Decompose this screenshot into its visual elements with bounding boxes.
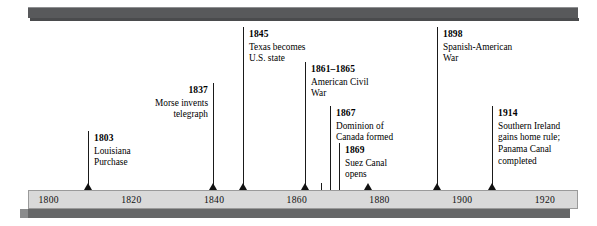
axis-event-marker (488, 183, 496, 190)
axis-event-marker (301, 183, 309, 190)
decorative-top-bar (28, 7, 578, 21)
event-year-spanish-american-war: 1898 (443, 29, 512, 42)
timeline-figure: 1803LouisianaPurchase1837Morse inventste… (0, 0, 597, 226)
event-callout-louisiana-purchase: 1803LouisianaPurchase (94, 133, 131, 169)
event-leader-line-morse-telegraph (213, 83, 214, 190)
axis-shadow (20, 209, 570, 218)
event-description-line-american-civil-war: American Civil (311, 77, 369, 89)
axis-tick-label-1900: 1900 (442, 194, 482, 205)
event-leader-line-american-civil-war (305, 62, 306, 190)
event-callout-texas-statehood: 1845Texas becomesU.S. state (249, 29, 305, 65)
event-description-line-spanish-american-war: War (443, 53, 512, 65)
event-year-texas-statehood: 1845 (249, 29, 305, 42)
axis-tick-label-1840: 1840 (194, 194, 234, 205)
event-year-dominion-of-canada: 1867 (336, 108, 393, 121)
event-leader-line-dominion-of-canada (330, 106, 331, 190)
event-description-line-dominion-of-canada: Canada formed (336, 132, 393, 144)
event-description-line-american-civil-war: War (311, 88, 369, 100)
event-year-suez-canal: 1869 (345, 145, 387, 158)
event-callout-american-civil-war: 1861–1865American CivilWar (311, 64, 369, 100)
event-description-line-suez-canal: opens (345, 169, 387, 181)
event-description-line-ireland-home-rule-panama-canal: gains home rule; (498, 132, 560, 144)
axis-tick-label-1880: 1880 (360, 194, 400, 205)
event-year-ireland-home-rule-panama-canal: 1914 (498, 108, 560, 121)
axis-event-marker (209, 183, 217, 190)
event-description-line-dominion-of-canada: Dominion of (336, 121, 393, 133)
axis-event-marker (84, 183, 92, 190)
axis-tick-label-1800: 1800 (29, 194, 69, 205)
event-callout-ireland-home-rule-panama-canal: 1914Southern Irelandgains home rule;Pana… (498, 108, 560, 167)
axis-tick-label-1920: 1920 (525, 194, 565, 205)
top-bar-face (28, 7, 578, 18)
top-bar-shadow (30, 18, 579, 21)
event-description-line-morse-telegraph: Morse invents (155, 98, 208, 110)
event-year-american-civil-war: 1861–1865 (311, 64, 369, 77)
event-leader-line-texas-statehood (243, 27, 244, 190)
axis-event-marker (433, 183, 441, 190)
event-year-morse-telegraph: 1837 (155, 85, 208, 98)
event-description-line-ireland-home-rule-panama-canal: Panama Canal (498, 144, 560, 156)
event-description-line-suez-canal: Suez Canal (345, 158, 387, 170)
axis-event-marker (364, 183, 372, 190)
event-callout-dominion-of-canada: 1867Dominion ofCanada formed (336, 108, 393, 144)
event-description-line-morse-telegraph: telegraph (155, 109, 208, 121)
event-callout-morse-telegraph: 1837Morse inventstelegraph (155, 85, 208, 121)
event-description-line-louisiana-purchase: Louisiana (94, 146, 131, 158)
event-description-line-texas-statehood: U.S. state (249, 53, 305, 65)
event-leader-line-ireland-home-rule-panama-canal (492, 106, 493, 190)
axis-event-marker (239, 183, 247, 190)
event-description-line-ireland-home-rule-panama-canal: completed (498, 156, 560, 168)
event-description-line-spanish-american-war: Spanish-American (443, 42, 512, 54)
event-description-line-texas-statehood: Texas becomes (249, 42, 305, 54)
event-callout-suez-canal: 1869Suez Canalopens (345, 145, 387, 181)
event-leader-line-suez-canal (339, 143, 340, 190)
event-description-line-ireland-home-rule-panama-canal: Southern Ireland (498, 121, 560, 133)
event-description-line-louisiana-purchase: Purchase (94, 157, 131, 169)
event-year-louisiana-purchase: 1803 (94, 133, 131, 146)
axis-shadow-edge (20, 209, 28, 218)
axis-tick-label-1860: 1860 (277, 194, 317, 205)
axis-tick-label-1820: 1820 (111, 194, 151, 205)
event-leader-line-spanish-american-war (437, 27, 438, 190)
event-callout-spanish-american-war: 1898Spanish-AmericanWar (443, 29, 512, 65)
event-leader-line-louisiana-purchase (88, 131, 89, 190)
